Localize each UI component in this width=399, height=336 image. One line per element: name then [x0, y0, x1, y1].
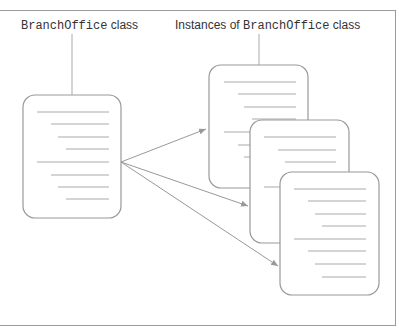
arrow-to-instance-1 — [121, 129, 206, 162]
instance-3 — [280, 172, 379, 295]
diagram-canvas — [0, 0, 399, 336]
class-document — [23, 95, 121, 218]
